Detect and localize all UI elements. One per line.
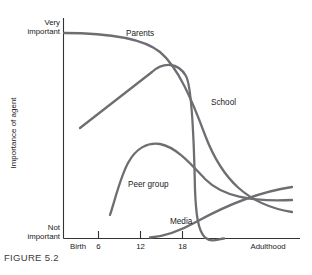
y-axis-top-label-line2: important <box>27 27 60 36</box>
series-label-media: Media <box>170 217 193 226</box>
x-tick-label-18: 18 <box>178 242 187 250</box>
y-axis-title: Importance of agent <box>9 97 18 169</box>
series-curve-parents <box>64 33 292 212</box>
series-curve-school <box>80 65 224 240</box>
figure-container: Very important Not important Importance … <box>0 0 312 275</box>
figure-caption: FIGURE 5.2 <box>4 252 59 263</box>
x-tick-label-6: 6 <box>96 242 100 250</box>
series-label-school: School <box>211 98 236 107</box>
series-curve-media <box>150 187 292 238</box>
y-axis-bottom-label-line2: important <box>27 232 60 241</box>
series-label-peer-group: Peer group <box>128 180 169 189</box>
series-label-parents: Parents <box>126 29 154 38</box>
x-tick-label-12: 12 <box>136 242 145 250</box>
y-axis-top-label-line1: Very <box>44 18 60 27</box>
x-axis-end-label: Adulthood <box>250 242 285 250</box>
x-axis-start-label: Birth <box>70 242 86 250</box>
y-axis-bottom-label-line1: Not <box>48 223 61 232</box>
importance-of-agent-chart: Very important Not important Importance … <box>0 0 312 250</box>
